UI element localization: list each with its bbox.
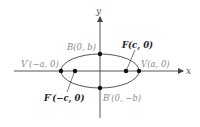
vertex-right-label: V(a, 0) <box>141 59 170 69</box>
covertex-bottom-point <box>98 86 102 90</box>
vertex-right-point <box>137 69 141 73</box>
focus-left-leader <box>67 73 74 92</box>
vertex-left-point <box>59 69 63 73</box>
covertex-top-label: B(0, b) <box>66 42 96 52</box>
y-axis-label: y <box>95 6 102 16</box>
focus-right-label: F(c, 0) <box>121 40 153 51</box>
covertex-bottom-label: B′(0, −b) <box>102 93 141 103</box>
x-axis-label: x <box>186 66 191 76</box>
covertex-top-point <box>98 52 102 56</box>
ellipse-diagram: x y B(0, b) F(c, 0) V(a, 0) V′(−a, 0) F′… <box>0 0 200 127</box>
vertex-left-label: V′(−a, 0) <box>21 59 59 69</box>
focus-right-point <box>124 69 128 73</box>
focus-left-point <box>73 69 77 73</box>
focus-left-label: F′(−c, 0) <box>43 93 84 104</box>
